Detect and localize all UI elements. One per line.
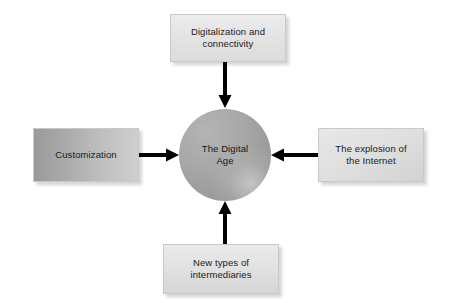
node-label-customization: Customization: [49, 149, 123, 162]
node-box-digitalization[interactable]: Digitalization and connectivity: [170, 14, 286, 62]
node-box-new-intermediaries[interactable]: New types of intermediaries: [163, 244, 279, 294]
arrow-up-icon: [218, 201, 232, 244]
node-box-customization[interactable]: Customization: [33, 128, 139, 182]
center-node-digital-age[interactable]: The Digital Age: [179, 109, 271, 201]
center-node-label: The Digital Age: [202, 143, 249, 168]
arrow-down-icon: [218, 62, 232, 109]
arrow-right-icon: [139, 148, 179, 162]
node-label-digitalization: Digitalization and connectivity: [185, 26, 271, 51]
arrow-left-icon: [271, 148, 318, 162]
node-label-new-intermediaries: New types of intermediaries: [184, 257, 257, 282]
diagram-canvas: Digitalization and connectivity Customiz…: [0, 0, 450, 303]
node-label-internet-explosion: The explosion of the Internet: [329, 143, 412, 168]
node-box-internet-explosion[interactable]: The explosion of the Internet: [318, 128, 424, 182]
